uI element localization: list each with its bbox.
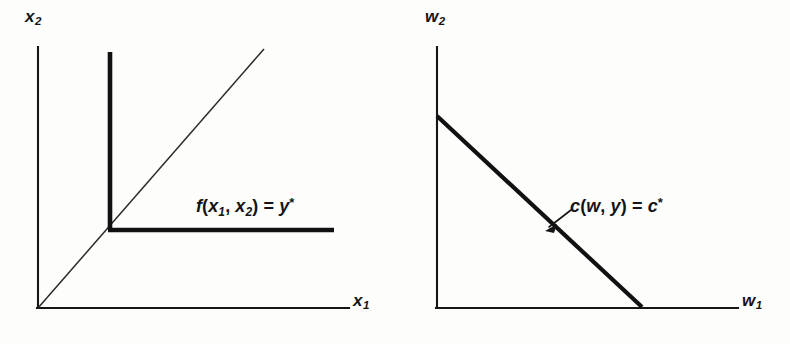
left-x-axis-label: x1 — [353, 292, 369, 312]
isoquant-equation-label: f(x1, x2) = y* — [196, 196, 294, 218]
figure-canvas — [0, 0, 790, 344]
isocost-equation-label: c(w, y) = c* — [570, 196, 663, 215]
right-y-axis-label: w2 — [425, 8, 445, 28]
expansion-path-ray — [38, 49, 264, 308]
right-panel-group — [436, 47, 738, 308]
right-x-axis-label: w1 — [742, 292, 762, 312]
economics-figure: x2 x1 f(x1, x2) = y* w2 w1 c(w, y) = c* — [0, 0, 790, 344]
left-panel-group — [37, 47, 349, 308]
isocost-leader-line — [549, 210, 571, 227]
left-y-axis-label: x2 — [25, 8, 41, 28]
